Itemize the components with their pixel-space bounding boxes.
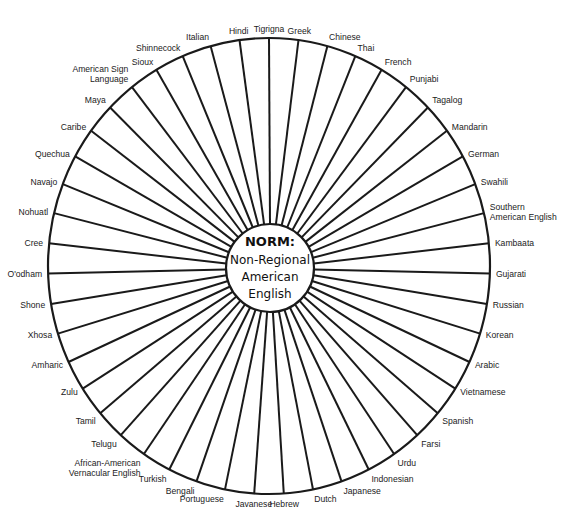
language-label: Korean: [486, 330, 514, 340]
center-line-2: American: [241, 270, 298, 284]
language-label: Javanese: [235, 499, 272, 509]
language-label: Bengali: [166, 486, 195, 496]
language-label: Maya: [85, 95, 106, 105]
language-wheel-diagram: NORM: Non-Regional American English Tigr…: [0, 0, 586, 531]
spoke: [121, 301, 241, 436]
language-label: Russian: [493, 300, 524, 310]
language-label: Tigrigna: [254, 24, 285, 34]
language-label: Spanish: [442, 416, 473, 426]
language-label: French: [385, 57, 412, 67]
language-label: Telugu: [91, 439, 117, 449]
spoke: [314, 243, 489, 263]
spoke: [49, 243, 226, 263]
language-label: Hebrew: [269, 499, 299, 509]
language-label: Amharic: [32, 360, 64, 370]
language-label: Hindi: [229, 26, 249, 36]
spoke: [302, 108, 428, 238]
language-label: Zulu: [61, 387, 78, 397]
spoke: [48, 270, 226, 274]
spoke: [307, 292, 455, 389]
spoke: [269, 38, 270, 224]
language-label: Farsi: [421, 439, 440, 449]
language-label: Chinese: [329, 32, 361, 42]
spoke: [313, 213, 484, 258]
center-line-1: Non-Regional: [230, 253, 310, 267]
spoke: [273, 312, 284, 494]
spoke: [75, 156, 231, 247]
language-label: Kambaata: [495, 238, 534, 248]
language-label: Swahili: [481, 177, 508, 187]
spoke: [144, 304, 245, 454]
spoke: [211, 46, 259, 226]
spoke: [314, 270, 490, 274]
spoke: [83, 292, 233, 389]
language-label: Greek: [288, 26, 312, 36]
language-label: American SignLanguage: [72, 64, 128, 84]
language-label: Gujarati: [496, 269, 526, 279]
language-label: Tagalog: [432, 95, 462, 105]
language-label: SouthernAmerican English: [490, 202, 557, 222]
language-label: German: [468, 149, 499, 159]
language-label: Xhosa: [28, 330, 53, 340]
language-label: Navajo: [30, 177, 57, 187]
language-label: Turkish: [139, 474, 167, 484]
language-label: Mandarin: [452, 122, 488, 132]
language-label: Japanese: [344, 486, 381, 496]
center-line-3: English: [248, 287, 291, 301]
language-label: Caribe: [61, 122, 87, 132]
language-label: Quechua: [35, 149, 70, 159]
center-title: NORM:: [245, 234, 295, 249]
spoke: [292, 70, 381, 230]
spoke: [110, 108, 238, 238]
language-label: Cree: [24, 238, 43, 248]
language-label: Italian: [186, 32, 209, 42]
language-label: Dutch: [314, 494, 337, 504]
spoke: [295, 304, 394, 454]
spoke: [309, 156, 463, 247]
spoke: [54, 213, 227, 258]
spoke: [240, 40, 265, 224]
language-label: Arabic: [475, 360, 500, 370]
language-label: Shinnecock: [136, 43, 181, 53]
language-label: Punjabi: [410, 74, 439, 84]
spoke: [300, 301, 418, 436]
language-label: Tamil: [76, 416, 96, 426]
language-label: African-AmericanVernacular English: [69, 458, 141, 478]
language-label: Indonesian: [371, 474, 413, 484]
spoke: [282, 46, 328, 226]
spoke: [156, 70, 247, 230]
spoke: [276, 40, 299, 224]
language-label: O'odham: [7, 269, 42, 279]
spoke: [279, 311, 313, 489]
language-label: Sioux: [132, 57, 154, 67]
language-label: Urdu: [398, 458, 417, 468]
language-label: Shone: [20, 300, 45, 310]
language-label: Vietnamese: [460, 387, 505, 397]
language-label: Nohuatl: [19, 207, 49, 217]
language-label: Thai: [358, 43, 375, 53]
